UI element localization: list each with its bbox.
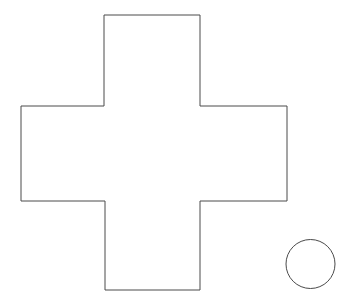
circle-shape[interactable] xyxy=(286,240,335,289)
figure-canvas xyxy=(0,0,351,300)
cross-polygon[interactable] xyxy=(21,15,287,290)
shapes-svg xyxy=(0,0,351,300)
